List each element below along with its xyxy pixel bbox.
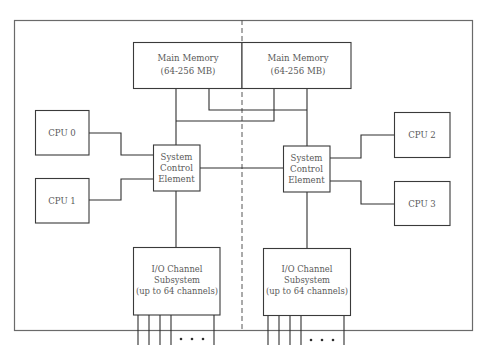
sce-left-line1: System: [161, 152, 193, 162]
cpu-3: CPU 3: [395, 182, 451, 226]
sce-right-line1: System: [291, 153, 323, 163]
io-right-line1: I/O Channel: [282, 264, 333, 274]
io-right-line3: (up to 64 channels): [266, 286, 348, 296]
ellipsis-dot: [332, 339, 335, 342]
ellipsis-dot: [310, 339, 313, 342]
cpu-1: CPU 1: [36, 179, 90, 224]
io-left-line1: I/O Channel: [152, 264, 203, 274]
main-memory-left-size: (64-256 MB): [161, 66, 216, 76]
main-memory-right-size: (64-256 MB): [271, 66, 326, 76]
multiprocessor-diagram: Main Memory (64-256 MB) Main Memory (64-…: [0, 0, 488, 359]
sce-right: System Control Element: [284, 146, 331, 192]
cpu-2: CPU 2: [395, 113, 451, 158]
sce-left: System Control Element: [154, 145, 201, 191]
cpu-1-label: CPU 1: [48, 196, 76, 206]
ellipsis-dot: [191, 338, 194, 341]
io-subsystem-left: I/O Channel Subsystem (up to 64 channels…: [134, 248, 221, 316]
io-right-line2: Subsystem: [284, 275, 330, 285]
ellipsis-dot: [321, 339, 324, 342]
ellipsis-dot: [202, 338, 205, 341]
io-left-line3: (up to 64 channels): [136, 286, 218, 296]
cpu-2-label: CPU 2: [408, 130, 436, 140]
cpu-0: CPU 0: [36, 111, 90, 156]
io-left-line2: Subsystem: [154, 275, 200, 285]
sce-right-line3: Element: [288, 175, 325, 185]
sce-left-line2: Control: [160, 163, 193, 173]
sce-left-line3: Element: [158, 174, 195, 184]
cpu-3-label: CPU 3: [408, 199, 436, 209]
ellipsis-dot: [180, 338, 183, 341]
io-subsystem-right: I/O Channel Subsystem (up to 64 channels…: [264, 249, 351, 316]
main-memory-left-title: Main Memory: [157, 53, 218, 63]
cpu-0-label: CPU 0: [48, 128, 76, 138]
main-memory-block: Main Memory (64-256 MB) Main Memory (64-…: [134, 43, 352, 89]
main-memory-right-title: Main Memory: [267, 53, 328, 63]
sce-right-line2: Control: [290, 164, 323, 174]
